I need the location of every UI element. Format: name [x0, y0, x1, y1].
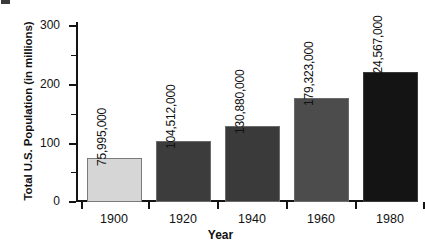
y-tick-label-300: 300 — [20, 19, 60, 31]
y-tick-minor-150 — [71, 114, 76, 115]
bar-value-label-1980: 224,567,000 — [372, 15, 384, 80]
x-tick-label-1940: 1940 — [222, 212, 282, 226]
x-tick-label-1900: 1900 — [84, 212, 144, 226]
y-tick-label-0: 0 — [20, 195, 60, 207]
y-axis-title: Total U.S. Population (in millions) — [22, 11, 34, 211]
y-tick-minor-50 — [71, 172, 76, 173]
y-tick-0 — [69, 201, 76, 203]
y-tick-200 — [69, 84, 76, 86]
y-tick-minor-250 — [71, 55, 76, 56]
y-tick-label-200: 200 — [20, 78, 60, 90]
bar-1920[interactable] — [156, 141, 211, 202]
y-tick-300 — [69, 25, 76, 27]
bar-1940[interactable] — [225, 126, 280, 202]
bar-value-label-1960: 179,323,000 — [303, 41, 315, 106]
x-tick-3 — [286, 202, 288, 209]
bar-1960[interactable] — [294, 98, 349, 202]
scan-artifact — [1, 0, 10, 4]
x-tick-label-1960: 1960 — [291, 212, 351, 226]
bar-value-label-1900: 75,995,000 — [96, 108, 108, 166]
x-tick-1 — [148, 202, 150, 209]
bar-value-label-1940: 130,880,000 — [234, 69, 246, 134]
x-tick-label-1980: 1980 — [360, 212, 420, 226]
y-tick-100 — [69, 143, 76, 145]
x-tick-label-1920: 1920 — [153, 212, 213, 226]
x-tick-start — [81, 202, 83, 209]
bar-value-label-1920: 104,512,000 — [165, 84, 177, 149]
bar-1980[interactable] — [363, 72, 418, 202]
x-tick-4 — [355, 202, 357, 209]
x-tick-2 — [217, 202, 219, 209]
plot-area: 300 200 100 0 75,995,000 104,512,000 130… — [76, 22, 362, 202]
y-tick-label-100: 100 — [20, 137, 60, 149]
x-axis-title: Year — [76, 228, 365, 242]
